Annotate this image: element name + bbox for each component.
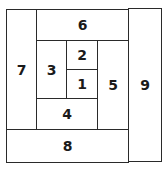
- piece-label: 2: [77, 47, 87, 63]
- piece-3: 3: [36, 40, 67, 99]
- piece-label: 5: [108, 77, 118, 93]
- piece-label: 4: [62, 106, 72, 122]
- piece-label: 6: [78, 17, 88, 33]
- piece-6: 6: [36, 9, 129, 41]
- piece-label: 3: [47, 62, 57, 78]
- piece-4: 4: [36, 98, 98, 130]
- piece-2: 2: [66, 40, 98, 70]
- piece-5: 5: [97, 40, 129, 130]
- piece-label: 9: [140, 77, 150, 93]
- piece-7: 7: [6, 9, 37, 130]
- piece-label: 7: [17, 62, 27, 78]
- piece-1: 1: [66, 69, 98, 99]
- piece-9: 9: [128, 8, 162, 162]
- piece-label: 1: [77, 76, 87, 92]
- piece-label: 8: [63, 138, 73, 154]
- piece-8: 8: [6, 129, 129, 163]
